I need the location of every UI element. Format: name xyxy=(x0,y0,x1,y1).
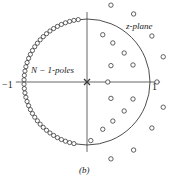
pole-marker-circle xyxy=(23,69,27,73)
zero-marker-circle xyxy=(111,41,115,45)
pole-marker-circle xyxy=(72,142,76,146)
zero-marker-circle xyxy=(122,51,126,55)
pole-marker-circle xyxy=(24,65,28,69)
pole-marker-circle xyxy=(26,104,30,108)
real-axis-tick-label-minus-one: −1 xyxy=(2,80,13,90)
z-plane-figure: z-plane N − 1-poles −1 1 (b) xyxy=(0,0,181,184)
pole-marker-circle xyxy=(76,18,80,22)
zero-marker-circle xyxy=(111,119,115,123)
pole-marker-circle xyxy=(25,60,29,64)
figure-caption: (b) xyxy=(79,166,90,175)
pole-marker-circle xyxy=(55,136,59,140)
pole-marker-circle xyxy=(24,95,28,99)
pole-marker-circle xyxy=(63,139,67,143)
zero-marker-circle xyxy=(131,12,135,16)
pole-marker-circle xyxy=(59,137,63,141)
pole-marker-circle xyxy=(26,56,30,60)
pole-marker-circle xyxy=(28,52,32,56)
pole-marker-circle xyxy=(22,82,26,86)
zero-marker-circle xyxy=(101,33,105,37)
zero-marker-circle xyxy=(89,138,93,142)
zero-marker-circle xyxy=(122,109,126,113)
z-plane-label: z-plane xyxy=(126,22,153,31)
real-axis-tick-label-one: 1 xyxy=(152,82,157,92)
pole-marker-circle xyxy=(22,78,26,82)
zero-marker-circle xyxy=(161,105,165,109)
pole-marker-circle xyxy=(68,140,72,144)
zero-marker-circle xyxy=(131,63,135,67)
zero-marker-circle xyxy=(109,63,113,67)
pole-zero-plot xyxy=(0,0,181,184)
zero-marker-circle xyxy=(109,3,113,7)
zero-marker-circle xyxy=(109,157,113,161)
zero-marker-circle xyxy=(150,126,154,130)
zero-marker-circle xyxy=(131,97,135,101)
pole-marker-circle xyxy=(22,73,26,77)
pole-marker-circle xyxy=(68,19,72,23)
zero-marker-circle xyxy=(161,55,165,59)
zero-marker-circle xyxy=(150,34,154,38)
pole-marker-circle xyxy=(22,86,26,90)
zero-marker-circle xyxy=(106,80,110,84)
poles-annotation-label: N − 1-poles xyxy=(31,66,74,75)
pole-marker-circle xyxy=(25,99,29,103)
pole-marker-circle xyxy=(72,18,76,22)
zero-marker-circle xyxy=(101,127,105,131)
zero-marker-circle xyxy=(109,96,113,100)
pole-marker-circle xyxy=(59,22,63,26)
pole-marker-circle xyxy=(63,21,67,25)
zero-marker-circle xyxy=(131,148,135,152)
pole-marker-circle xyxy=(23,91,27,95)
